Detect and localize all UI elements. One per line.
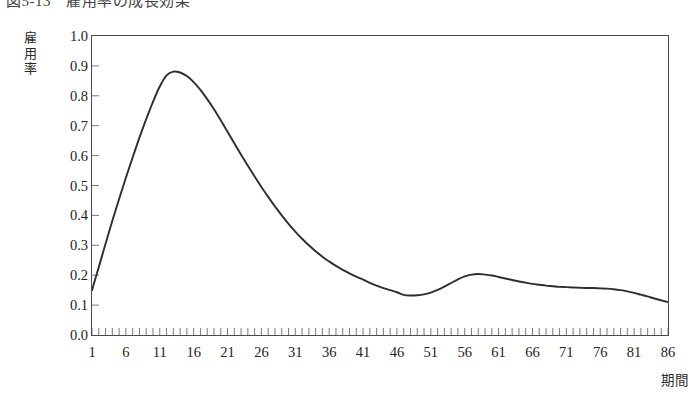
x-axis-tick-label: 11 bbox=[153, 345, 167, 360]
x-axis-tick-label: 56 bbox=[457, 345, 472, 360]
y-axis-tick-label: 0.7 bbox=[54, 119, 88, 134]
x-axis-tick-label: 36 bbox=[322, 345, 337, 360]
figure-root: 図5-13 雇用率の成長効果 雇 用 率 1.00.90.80.70.60.50… bbox=[0, 0, 700, 395]
y-axis-tick-label: 0.1 bbox=[54, 298, 88, 313]
y-axis-tick-label: 1.0 bbox=[54, 29, 88, 44]
x-axis-tick-label: 16 bbox=[186, 345, 201, 360]
x-axis-tick-label: 66 bbox=[525, 345, 540, 360]
figure-title-text: 図5-13 雇用率の成長効果 bbox=[6, 0, 191, 9]
x-axis-tick-label: 41 bbox=[356, 345, 371, 360]
x-axis-tick-label: 6 bbox=[122, 345, 129, 360]
data-line-employment-rate bbox=[92, 71, 668, 302]
x-axis-tick-labels: 1611162126313641465156616671768186 bbox=[0, 345, 700, 367]
y-axis-tick-label: 0.2 bbox=[54, 268, 88, 283]
line-chart-svg bbox=[92, 36, 668, 335]
y-axis-tick-label: 0.3 bbox=[54, 238, 88, 253]
y-axis-label-char-2: 用 bbox=[22, 46, 39, 62]
plot-area bbox=[91, 35, 669, 336]
x-axis-minor-ticks bbox=[92, 328, 668, 335]
y-axis-tick-label: 0.4 bbox=[54, 208, 88, 223]
figure-title: 図5-13 雇用率の成長効果 bbox=[6, 0, 191, 10]
y-axis-label-char-1: 雇 bbox=[22, 30, 39, 46]
y-axis-tick-labels: 1.00.90.80.70.60.50.40.30.20.10.0 bbox=[48, 0, 88, 395]
x-axis-tick-label: 86 bbox=[661, 345, 676, 360]
x-axis-tick-label: 71 bbox=[559, 345, 574, 360]
x-axis-tick-label: 81 bbox=[627, 345, 642, 360]
y-axis-tick-label: 0.9 bbox=[54, 59, 88, 74]
y-axis-tick-label: 0.5 bbox=[54, 179, 88, 194]
x-axis-tick-label: 1 bbox=[88, 345, 95, 360]
y-axis-tick-label: 0.8 bbox=[54, 89, 88, 104]
x-axis-tick-label: 51 bbox=[424, 345, 439, 360]
y-axis-tick-label: 0.6 bbox=[54, 149, 88, 164]
y-axis-tick-label: 0.0 bbox=[54, 328, 88, 343]
x-axis-label: 期間 bbox=[661, 369, 688, 389]
y-axis-label-char-3: 率 bbox=[22, 61, 39, 77]
y-axis-label: 雇 用 率 bbox=[22, 30, 39, 77]
x-axis-tick-label: 31 bbox=[288, 345, 303, 360]
x-axis-tick-label: 26 bbox=[254, 345, 269, 360]
x-axis-tick-label: 21 bbox=[220, 345, 235, 360]
x-axis-tick-label: 76 bbox=[593, 345, 608, 360]
x-axis-tick-label: 61 bbox=[491, 345, 506, 360]
x-axis-tick-label: 46 bbox=[390, 345, 405, 360]
plot-canvas bbox=[92, 36, 668, 335]
